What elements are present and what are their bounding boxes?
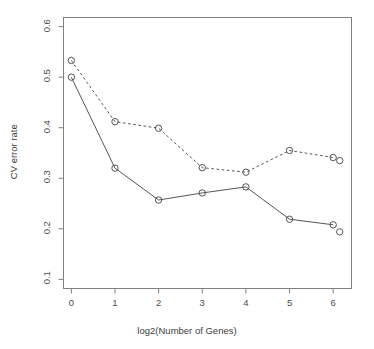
series-solid-series — [68, 74, 343, 235]
y-tick-label: 0.4 — [42, 115, 52, 137]
series-line — [71, 77, 333, 225]
y-tick-label: 0.3 — [42, 166, 52, 188]
plot-canvas — [0, 0, 374, 349]
y-tick-label: 0.6 — [42, 14, 52, 36]
axis-ticks — [59, 27, 334, 294]
x-tick-label: 5 — [278, 298, 302, 308]
plot-box — [64, 18, 352, 289]
x-tick-label: 4 — [234, 298, 258, 308]
y-tick-label: 0.1 — [42, 267, 52, 289]
series-line — [71, 60, 333, 172]
x-tick-label: 2 — [147, 298, 171, 308]
data-point-marker — [337, 229, 343, 235]
y-tick-label: 0.2 — [42, 217, 52, 239]
data-point-marker — [155, 125, 161, 131]
x-tick-label: 6 — [321, 298, 345, 308]
data-point-marker — [337, 157, 343, 163]
y-tick-label: 0.5 — [42, 65, 52, 87]
x-axis-title: log2(Number of Genes) — [0, 326, 374, 336]
data-series-group — [68, 57, 343, 235]
x-tick-label: 0 — [59, 298, 83, 308]
y-axis-title: CV error rate — [9, 92, 19, 212]
series-dashed-series — [68, 57, 343, 175]
x-tick-label: 3 — [190, 298, 214, 308]
cv-error-rate-chart: 0.10.20.30.40.50.6 0123456 CV error rate… — [0, 0, 374, 349]
x-tick-label: 1 — [103, 298, 127, 308]
